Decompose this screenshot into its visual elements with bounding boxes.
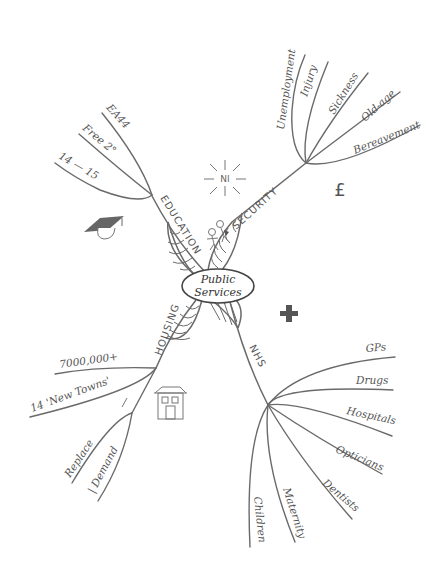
branch-nhs: NHS GPs Drugs Hospitals Opticians Dentis… xyxy=(247,340,398,547)
leaf-security-sickness: Sickness xyxy=(326,70,361,116)
leaf-education-ages: 14 — 15 xyxy=(57,149,101,182)
leaf-nhs-gps: GPs xyxy=(365,340,387,354)
mind-map: Public Services EDUCATION EA44 Free 2° 1… xyxy=(0,0,433,585)
leaf-housing-new-towns: 14 'New Towns' xyxy=(29,374,112,414)
leaf-nhs-opticians: Opticians xyxy=(334,443,386,473)
branch-label-education: EDUCATION xyxy=(158,193,203,256)
up-arrow-icon xyxy=(122,398,127,407)
leaf-housing-units: 7000,000+ xyxy=(59,350,119,370)
education-trunk xyxy=(152,196,205,276)
branch-education: EDUCATION EA44 Free 2° 14 — 15 xyxy=(55,101,204,257)
leaf-nhs-drugs: Drugs xyxy=(355,374,389,386)
leaf-nhs-maternity: Maternity xyxy=(281,485,309,541)
branch-label-housing: HOUSING xyxy=(153,302,182,357)
leaf-nhs-hospitals: Hospitals xyxy=(345,404,398,427)
center-label-line1: Public xyxy=(200,273,236,286)
leaf-education-ea44: EA44 xyxy=(104,101,133,131)
house-icon xyxy=(154,387,187,419)
branch-security: SECURITY Unemployment Injury Sickness Ol… xyxy=(230,47,422,231)
center-label-line2: Services xyxy=(194,286,242,299)
leaf-nhs-dentists: Dentists xyxy=(320,476,363,514)
leaf-security-bereavement: Bereavement xyxy=(350,118,422,156)
leaf-security-old-age: Old-age xyxy=(358,87,397,124)
svg-text:NI: NI xyxy=(220,174,229,184)
graduation-cap-icon xyxy=(84,216,124,239)
branch-housing: HOUSING 7000,000+ 14 'New Towns' Replace… xyxy=(29,302,182,501)
plus-cross-icon xyxy=(280,305,298,322)
leaf-housing-demand: | Demand xyxy=(85,444,122,496)
pound-sign-icon: £ xyxy=(334,179,345,200)
leaf-security-unemployment: Unemployment xyxy=(274,47,297,130)
center-node: Public Services xyxy=(182,269,254,303)
leaf-nhs-children: Children xyxy=(252,496,269,543)
ni-burst-icon: NI xyxy=(204,160,246,196)
